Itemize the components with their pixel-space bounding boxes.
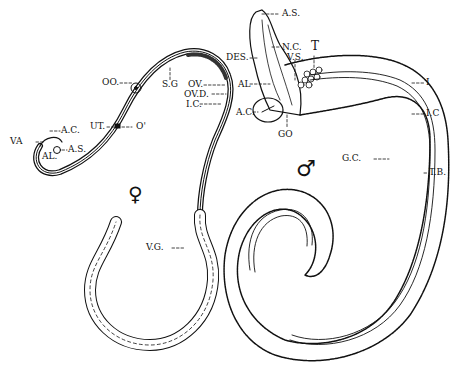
female-label-va: VA	[10, 137, 22, 146]
male-symbol: ♂	[296, 158, 316, 180]
female-label-ac: A.C.	[61, 126, 80, 135]
male-label-as: A.S.	[282, 9, 300, 18]
female-label-sg: S.G	[162, 80, 178, 89]
male-label-ic: I.C	[426, 109, 439, 118]
female-symbol: ♀	[128, 184, 143, 204]
male-label-al: AL	[238, 80, 250, 89]
male-label-vs: V.S.	[287, 53, 304, 62]
male-body	[224, 10, 449, 361]
male-label-tb: T.B.	[429, 168, 446, 177]
female-label-as: A.S.	[68, 145, 86, 154]
male-label-des: DES.	[226, 53, 249, 62]
male-label-ac: A.C.	[236, 108, 255, 117]
female-label-o: O'	[136, 122, 146, 131]
leader-lines	[36, 14, 427, 248]
female-label-vg: V.G.	[146, 243, 164, 252]
female-label-ut: UT.	[90, 122, 105, 131]
male-label-i: I	[426, 78, 430, 87]
male-label-t: T	[311, 40, 319, 52]
male-label-gc: G.C.	[342, 154, 361, 163]
male-label-nc: N.C.	[282, 43, 302, 52]
male-label-go: GO	[278, 130, 293, 139]
female-label-ic: I.C.	[186, 100, 202, 109]
female-label-ovd: OV.D.	[184, 90, 209, 99]
female-label-oo: OO.	[102, 78, 119, 87]
female-label-al: AL.	[42, 152, 57, 161]
female-label-ov: OV.	[188, 80, 203, 89]
